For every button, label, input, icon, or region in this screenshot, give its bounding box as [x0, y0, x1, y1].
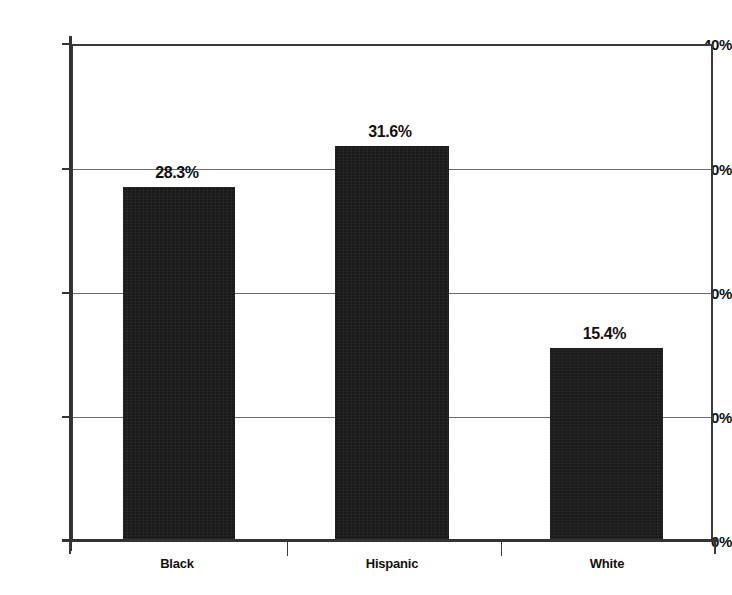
- bar-black[interactable]: [123, 187, 235, 539]
- bar-value-white: 15.4%: [548, 325, 661, 343]
- bar-value-hispanic: 31.6%: [333, 123, 447, 141]
- y-axis-line: [69, 36, 72, 551]
- x-axis-line: [62, 539, 718, 542]
- bar-value-black: 28.3%: [121, 164, 233, 182]
- x-axis-tick-start: [69, 542, 71, 554]
- x-axis-tick-end: [714, 542, 716, 554]
- x-axis-label-hispanic: Hispanic: [325, 556, 459, 571]
- x-axis-label-black: Black: [110, 556, 244, 571]
- bar-white[interactable]: [550, 348, 663, 539]
- x-axis-label-white: White: [540, 556, 674, 571]
- plot-area: [71, 44, 713, 541]
- bar-hispanic[interactable]: [335, 146, 449, 539]
- bar-chart: 40% 30% 20% 10% 0% 28.3% 31.6% 15.4% Bla…: [0, 0, 732, 595]
- x-axis-separator-1: [287, 542, 288, 556]
- x-axis-separator-2: [501, 542, 502, 556]
